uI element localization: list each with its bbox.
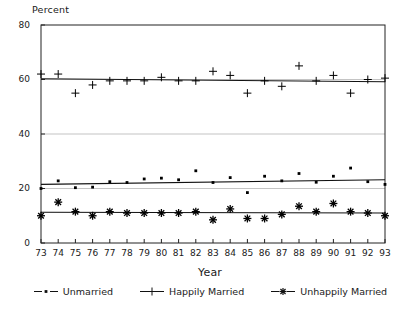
legend-label: Unmarried: [63, 287, 113, 297]
data-point-square: [263, 175, 266, 178]
data-point-square: [160, 177, 163, 180]
y-tick-label-60: 60: [8, 74, 30, 84]
square-line-key: [33, 286, 59, 297]
data-point-plus: [175, 77, 183, 85]
chart-legend: UnmarriedHappily MarriedUnhappily Marrie…: [0, 286, 420, 297]
y-axis-title: Percent: [32, 4, 69, 15]
data-point-square: [298, 172, 301, 175]
plus-line-key: [139, 286, 165, 297]
x-tick-label-93: 93: [375, 248, 395, 258]
data-point-plus: [381, 74, 389, 82]
data-point-square: [143, 178, 146, 181]
data-point-square: [91, 186, 94, 189]
data-point-asterisk: [37, 212, 45, 220]
y-tick-label-0: 0: [8, 238, 30, 248]
chart-figure: Percent 80 60 40 20 0 737475767778798081…: [0, 0, 420, 316]
legend-label: Unhappily Married: [300, 287, 387, 297]
data-point-asterisk: [71, 208, 79, 216]
data-point-asterisk: [54, 198, 62, 206]
data-point-square: [126, 181, 129, 184]
data-point-asterisk: [243, 214, 251, 222]
data-point-plus: [192, 77, 200, 85]
data-point-plus: [140, 77, 148, 85]
data-point-plus: [54, 70, 62, 78]
data-point-asterisk: [209, 216, 217, 224]
data-point-asterisk: [89, 212, 97, 220]
data-point-square: [212, 181, 215, 184]
data-point-plus: [329, 71, 337, 79]
legend-entry-happily-married: Happily Married: [139, 286, 244, 297]
data-point-asterisk: [175, 209, 183, 217]
data-point-plus: [37, 70, 45, 78]
data-point-square: [280, 179, 283, 182]
y-tick-label-20: 20: [8, 183, 30, 193]
data-point-plus: [123, 77, 131, 85]
data-point-asterisk: [123, 209, 131, 217]
data-point-plus: [278, 82, 286, 90]
legend-label: Happily Married: [169, 287, 244, 297]
data-point-square: [74, 186, 77, 189]
data-point-asterisk: [347, 208, 355, 216]
data-point-plus: [347, 89, 355, 97]
data-point-plus: [226, 71, 234, 79]
data-point-plus: [71, 89, 79, 97]
data-point-asterisk: [295, 202, 303, 210]
data-point-plus: [243, 89, 251, 97]
data-point-square: [315, 181, 318, 184]
data-point-square: [366, 180, 369, 183]
data-point-square: [332, 175, 335, 178]
data-point-square: [194, 169, 197, 172]
data-point-square: [229, 176, 232, 179]
data-point-asterisk: [106, 208, 114, 216]
asterisk-line-key: [270, 286, 296, 297]
data-point-square: [349, 167, 352, 170]
data-point-asterisk: [226, 205, 234, 213]
data-point-square: [108, 180, 111, 183]
data-point-asterisk: [329, 199, 337, 207]
data-point-asterisk: [312, 208, 320, 216]
data-point-asterisk: [261, 214, 269, 222]
data-point-square: [57, 179, 60, 182]
data-point-square: [40, 187, 43, 190]
data-point-plus: [364, 76, 372, 84]
x-axis-title: Year: [0, 266, 420, 279]
y-tick-label-80: 80: [8, 20, 30, 30]
data-point-asterisk: [364, 209, 372, 217]
data-point-plus: [295, 62, 303, 70]
data-point-asterisk: [192, 208, 200, 216]
legend-entry-unhappily-married: Unhappily Married: [270, 286, 387, 297]
data-point-plus: [209, 67, 217, 75]
data-point-square: [384, 183, 387, 186]
data-point-asterisk: [140, 209, 148, 217]
y-tick-label-40: 40: [8, 129, 30, 139]
data-point-asterisk: [157, 209, 165, 217]
data-point-asterisk: [278, 210, 286, 218]
data-point-plus: [312, 77, 320, 85]
data-point-plus: [261, 77, 269, 85]
data-point-plus: [106, 77, 114, 85]
data-point-asterisk: [381, 212, 389, 220]
data-point-square: [246, 191, 249, 194]
data-point-plus: [89, 81, 97, 89]
legend-entry-unmarried: Unmarried: [33, 286, 113, 297]
data-point-square: [177, 178, 180, 181]
